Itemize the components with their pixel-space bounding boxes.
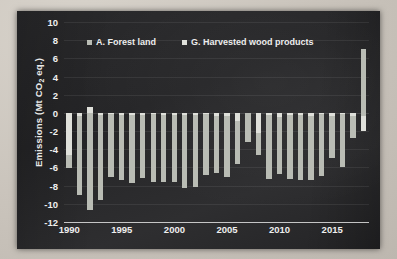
- bar-segment-harvested-wood-products-1996: [129, 113, 134, 115]
- bar-column-2017[interactable]: [348, 22, 359, 222]
- y-axis-tick--8: -8: [50, 180, 58, 191]
- y-axis-title-prefix: Emissions (Mt CO: [33, 83, 44, 168]
- y-axis-title-suffix: eq.): [33, 58, 44, 79]
- bar-column-2008[interactable]: [253, 22, 264, 222]
- page-background: Emissions (Mt CO2 eq.) A. Forest land G.…: [0, 0, 397, 259]
- bar-segment-harvested-wood-products-1994: [108, 113, 113, 114]
- bar-column-1990[interactable]: [64, 22, 75, 222]
- bar-segment-harvested-wood-products-1992: [87, 107, 92, 112]
- bar-segment-harvested-wood-products-2006: [235, 113, 240, 121]
- bar-segment-forest-land-1995: [119, 115, 124, 180]
- bar-segment-forest-land-2005: [224, 116, 229, 178]
- bar-column-1993[interactable]: [96, 22, 107, 222]
- bar-segment-harvested-wood-products-2008: [256, 113, 261, 133]
- bar-segment-forest-land-2007: [245, 113, 250, 142]
- bar-segment-harvested-wood-products-2009: [266, 113, 271, 115]
- bar-column-1996[interactable]: [127, 22, 138, 222]
- bar-segment-forest-land-2001: [182, 115, 187, 189]
- bar-segment-harvested-wood-products-2002: [193, 113, 198, 115]
- bar-segment-forest-land-2011: [287, 115, 292, 180]
- x-axis-tick-2015: 2015: [322, 224, 343, 235]
- bar-column-2003[interactable]: [201, 22, 212, 222]
- bar-segment-harvested-wood-products-2015: [329, 113, 334, 116]
- y-axis-tick--4: -4: [50, 144, 58, 155]
- bar-segment-forest-land-1991: [77, 116, 82, 195]
- bar-segment-harvested-wood-products-2010: [277, 113, 282, 118]
- bar-segment-forest-land-2017: [350, 116, 355, 139]
- y-axis-tick-6: 6: [53, 53, 58, 64]
- bar-column-1992[interactable]: [85, 22, 96, 222]
- bar-segment-forest-land-2003: [203, 114, 208, 175]
- y-axis-title-subscript: 2: [38, 78, 45, 82]
- chart-panel: Emissions (Mt CO2 eq.) A. Forest land G.…: [17, 11, 380, 249]
- bar-column-2013[interactable]: [306, 22, 317, 222]
- bar-segment-harvested-wood-products-1998: [151, 113, 156, 114]
- bar-column-2000[interactable]: [169, 22, 180, 222]
- bar-segment-forest-land-1997: [140, 115, 145, 179]
- bar-column-1997[interactable]: [138, 22, 149, 222]
- bar-segment-forest-land-1999: [161, 115, 166, 182]
- bar-column-2005[interactable]: [222, 22, 233, 222]
- bar-segment-harvested-wood-products-2011: [287, 113, 292, 115]
- y-axis-tick-10: 10: [47, 17, 58, 28]
- bar-segment-harvested-wood-products-2014: [319, 113, 324, 114]
- bar-segment-harvested-wood-products-2018: [361, 116, 366, 131]
- x-axis-tick-2005: 2005: [216, 224, 237, 235]
- bar-segment-forest-land-2006: [235, 121, 240, 164]
- bar-segment-harvested-wood-products-2005: [224, 113, 229, 116]
- bar-segment-forest-land-2004: [214, 116, 219, 173]
- bar-column-2014[interactable]: [316, 22, 327, 222]
- bar-segment-forest-land-2018: [361, 49, 366, 115]
- bar-column-2001[interactable]: [180, 22, 191, 222]
- bar-segment-forest-land-2002: [193, 115, 198, 187]
- bar-segment-forest-land-2008: [256, 133, 261, 155]
- bar-column-2009[interactable]: [264, 22, 275, 222]
- bar-segment-forest-land-1993: [98, 115, 103, 200]
- bar-segment-forest-land-1994: [108, 114, 113, 178]
- bar-segment-forest-land-2010: [277, 117, 282, 173]
- bar-column-1994[interactable]: [106, 22, 117, 222]
- y-axis-tick--6: -6: [50, 162, 58, 173]
- bar-column-1991[interactable]: [75, 22, 86, 222]
- bar-segment-forest-land-1992: [87, 107, 92, 210]
- bar-column-1998[interactable]: [148, 22, 159, 222]
- y-axis-tick-4: 4: [53, 71, 58, 82]
- bar-column-2010[interactable]: [274, 22, 285, 222]
- bar-segment-forest-land-2013: [308, 116, 313, 181]
- y-axis-tick-8: 8: [53, 35, 58, 46]
- bar-column-1999[interactable]: [159, 22, 170, 222]
- bar-segment-forest-land-1998: [151, 114, 156, 182]
- bar-column-2015[interactable]: [327, 22, 338, 222]
- bar-segment-harvested-wood-products-2001: [182, 113, 187, 115]
- x-axis-tick-1990: 1990: [59, 224, 80, 235]
- bar-segment-forest-land-1996: [129, 115, 134, 183]
- bar-segment-harvested-wood-products-2003: [203, 113, 208, 114]
- bar-column-2004[interactable]: [211, 22, 222, 222]
- bar-column-2016[interactable]: [337, 22, 348, 222]
- bar-segment-harvested-wood-products-1999: [161, 113, 166, 115]
- bar-segment-harvested-wood-products-2004: [214, 113, 219, 116]
- bar-column-2011[interactable]: [285, 22, 296, 222]
- bar-column-2018[interactable]: [358, 22, 369, 222]
- bar-segment-harvested-wood-products-1990: [66, 113, 71, 155]
- bar-segment-harvested-wood-products-2016: [340, 113, 345, 114]
- bar-column-2002[interactable]: [190, 22, 201, 222]
- bar-segment-forest-land-2012: [298, 115, 303, 180]
- bar-column-2012[interactable]: [295, 22, 306, 222]
- y-axis-tick--12: -12: [44, 217, 58, 228]
- bar-segment-forest-land-2014: [319, 114, 324, 176]
- bar-segment-harvested-wood-products-2013: [308, 113, 313, 116]
- bar-segment-harvested-wood-products-1997: [140, 113, 145, 115]
- bar-segment-harvested-wood-products-1991: [77, 113, 82, 116]
- bar-column-2006[interactable]: [232, 22, 243, 222]
- bar-column-2007[interactable]: [243, 22, 254, 222]
- bar-segment-forest-land-2000: [172, 115, 177, 182]
- bar-segment-forest-land-2016: [340, 114, 345, 167]
- bar-segment-harvested-wood-products-1995: [119, 113, 124, 115]
- bar-segment-forest-land-2015: [329, 116, 334, 159]
- bar-segment-harvested-wood-products-2012: [298, 113, 303, 115]
- y-axis-tick--2: -2: [50, 126, 58, 137]
- x-axis-tick-1995: 1995: [111, 224, 132, 235]
- bar-column-1995[interactable]: [117, 22, 128, 222]
- bar-segment-harvested-wood-products-2017: [350, 113, 355, 116]
